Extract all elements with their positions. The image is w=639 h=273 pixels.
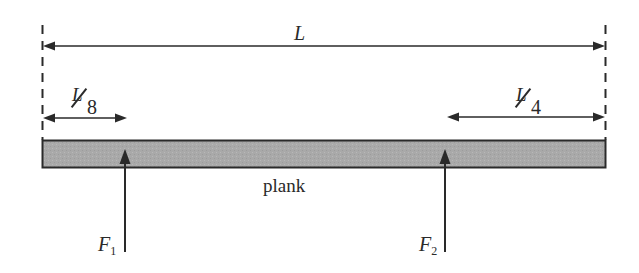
total-length-label: L — [294, 22, 305, 45]
force-f1-subscript: 1 — [110, 244, 116, 258]
force-f2-symbol: F — [419, 233, 431, 255]
force-f2-subscript: 2 — [431, 244, 437, 258]
left-offset-denominator: 8 — [87, 96, 97, 119]
diagram-graphics — [0, 0, 639, 273]
force-f1-label: F1 — [98, 233, 116, 259]
plank-label: plank — [263, 175, 305, 197]
force-f1-symbol: F — [98, 233, 110, 255]
plank-diagram: L L 8 L 4 plank F1 F2 — [0, 0, 639, 273]
force-f2-label: F2 — [419, 233, 437, 259]
total-length-arrow — [43, 42, 605, 51]
left-offset-label: L 8 — [70, 84, 110, 118]
right-offset-denominator: 4 — [531, 96, 541, 119]
right-offset-label: L 4 — [514, 84, 554, 118]
